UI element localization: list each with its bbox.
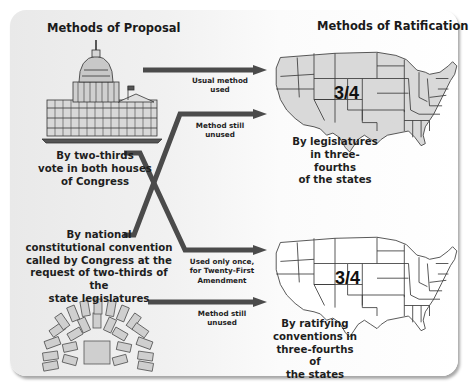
label-line: of the states (290, 174, 380, 187)
arrow-label-usual: Usual method used (180, 76, 260, 95)
label-line: called by Congress at the (24, 255, 174, 268)
label-line: Usual method (180, 76, 260, 85)
arrow-label-once: Used only once, for Twenty-First Amendme… (180, 257, 264, 285)
label-line: By two-thirds (35, 150, 155, 163)
ratification-legislatures-label: By legislatures in three-fourths of the … (290, 136, 380, 187)
label-line: the states (270, 369, 360, 382)
label-line: constitutional convention (24, 242, 174, 255)
convention-seating-icon (42, 299, 153, 371)
label-line: By national (24, 229, 174, 242)
label-line: used (180, 85, 260, 94)
label-line: By legislatures (290, 136, 380, 149)
ratification-conventions-label: By ratifying conventions in three-fourth… (270, 318, 360, 382)
proposal-congress-label: By two-thirds vote in both houses of Con… (35, 150, 155, 188)
fraction-conventions: 3/4 (335, 268, 360, 289)
label-line: unused (180, 130, 260, 139)
label-line: three-fourths of (270, 344, 360, 370)
label-line: Method still (180, 309, 264, 318)
arrow-label-unused-2: Method still unused (180, 309, 264, 328)
fraction-legislatures: 3/4 (334, 83, 359, 104)
label-line: for Twenty-First (180, 266, 264, 275)
proposal-convention-label: By national constitutional convention ca… (24, 229, 174, 306)
label-line: conventions in (270, 331, 360, 344)
label-line: of Congress (35, 176, 155, 189)
label-line: By ratifying (270, 318, 360, 331)
label-line: state legislatures (24, 293, 174, 306)
arrow-label-unused-1: Method still unused (180, 121, 260, 140)
label-line: in three-fourths (290, 149, 380, 175)
label-line: Method still (180, 121, 260, 130)
label-line: Amendment (180, 276, 264, 285)
label-line: unused (180, 318, 264, 327)
label-line: Used only once, (180, 257, 264, 266)
capitol-building-icon (42, 40, 162, 143)
label-line: vote in both houses (35, 163, 155, 176)
label-line: request of two-thirds of the (24, 267, 174, 293)
